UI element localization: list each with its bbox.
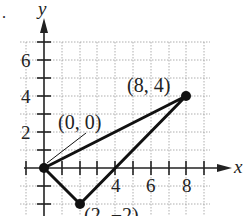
- bullet-mark: .: [2, 4, 6, 21]
- y-axis-label: y: [36, 0, 47, 19]
- point-label-origin: (0, 0): [58, 111, 101, 134]
- y-tick-label-2: 2: [21, 122, 31, 143]
- coordinate-plane: . y x 6 4 2 4 6 8 (0, 0) (8, 4) (2, −2): [0, 0, 243, 216]
- point-label-8-4: (8, 4): [127, 74, 170, 97]
- point-8-4: [181, 91, 191, 101]
- x-axis-label: x: [233, 156, 243, 177]
- y-tick-label-6: 6: [21, 50, 31, 71]
- x-axis-arrow-icon: [217, 164, 232, 172]
- point-label-2-neg2: (2, −2): [84, 204, 139, 216]
- x-tick-label-4: 4: [111, 175, 121, 196]
- y-tick-label-4: 4: [21, 86, 31, 107]
- point-origin: [39, 163, 49, 173]
- x-tick-label-8: 8: [182, 175, 192, 196]
- axes: [24, 26, 222, 216]
- x-tick-label-6: 6: [146, 175, 156, 196]
- y-axis-arrow-icon: [40, 18, 48, 33]
